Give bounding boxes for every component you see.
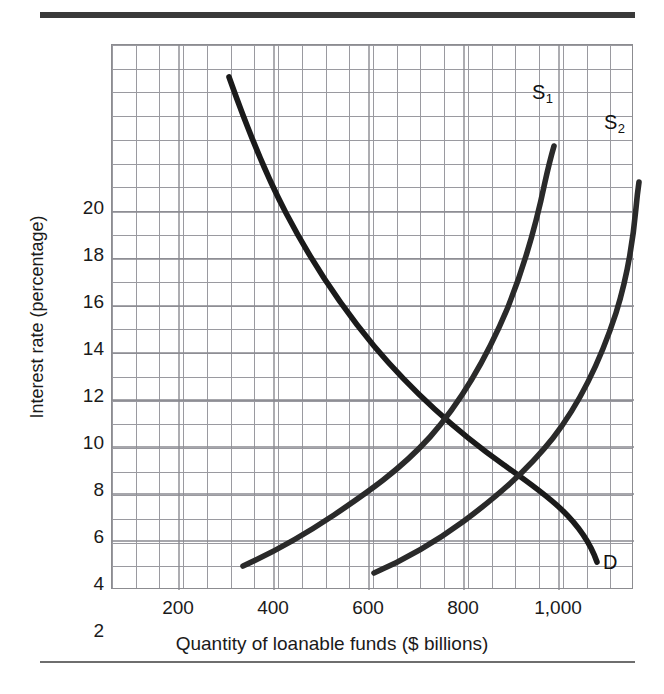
supply-1-base: S [532, 81, 545, 103]
supply-2-subscript: 2 [618, 121, 625, 136]
y-tick-18: 18 [70, 245, 104, 264]
supply-2-base: S [604, 111, 617, 133]
x-tick-600: 600 [323, 597, 413, 619]
supply-curve-1-label: S1 [532, 82, 553, 102]
x-axis-tick-labels: 200 400 600 800 1,000 [0, 597, 664, 627]
top-rule-divider [40, 12, 635, 18]
bottom-rule-divider [40, 661, 635, 663]
plot-area [111, 44, 633, 589]
y-axis-title: Interest rate (percentage) [27, 167, 47, 467]
x-tick-200: 200 [133, 597, 223, 619]
y-tick-20: 20 [70, 198, 104, 217]
y-axis-tick-labels: 20 18 16 14 12 10 8 6 4 2 [62, 0, 104, 694]
demand-curve-label: D [603, 552, 617, 572]
x-tick-800: 800 [418, 597, 508, 619]
supply-curve-2-label: S2 [604, 112, 625, 132]
supply-1-subscript: 1 [546, 91, 553, 106]
y-tick-14: 14 [70, 339, 104, 358]
major-gridlines [112, 45, 634, 590]
y-tick-10: 10 [70, 433, 104, 452]
x-tick-1000: 1,000 [513, 597, 603, 619]
curves-layer [112, 45, 634, 590]
x-tick-400: 400 [228, 597, 318, 619]
supply-curve-2-path [374, 182, 639, 573]
y-tick-6: 6 [70, 527, 104, 546]
y-tick-4: 4 [70, 574, 104, 593]
supply-curve-1-path [243, 146, 554, 566]
figure-container: Interest rate (percentage) 20 18 16 14 1… [0, 0, 664, 694]
y-tick-8: 8 [70, 480, 104, 499]
x-axis-title: Quantity of loanable funds ($ billions) [0, 633, 664, 655]
y-tick-12: 12 [70, 386, 104, 405]
y-tick-16: 16 [70, 292, 104, 311]
demand-curve-path [229, 77, 597, 562]
